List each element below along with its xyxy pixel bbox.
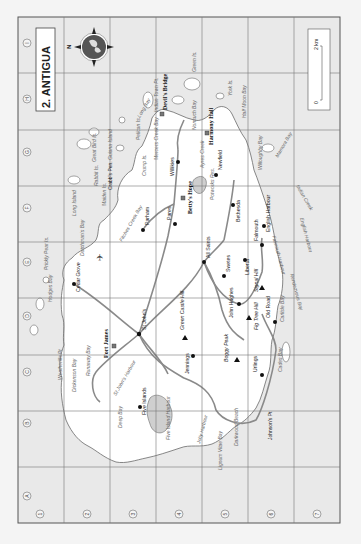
grid-row-1: 1 <box>37 512 43 515</box>
water-label: Crump Is. <box>141 154 147 176</box>
town-label: Falmouth <box>253 219 259 241</box>
water-label: Mercers Creek Bay <box>153 117 159 160</box>
peak-label: Signal Hill <box>253 268 259 292</box>
grid-col-I: I <box>24 42 30 43</box>
site-label: Devil's Bridge <box>162 73 168 110</box>
town-label: Jennings <box>184 353 190 374</box>
water-label: Guiana Island <box>107 129 113 160</box>
water-label: Prickly Pear Is. <box>43 237 49 270</box>
water-label: Carlisle Bay <box>279 295 285 322</box>
grid-col-H: H <box>24 97 30 101</box>
water-label: Darkwood Beach <box>233 408 239 446</box>
grid-col-C: C <box>24 370 30 374</box>
water-label: York Is. <box>227 79 233 96</box>
grid-col-F: F <box>24 206 30 209</box>
town-label: Old Road <box>265 296 271 318</box>
map-title-box: 2. ANTIGUA <box>36 28 55 111</box>
water-label: Pelican Is. <box>135 117 141 140</box>
water-label: Willoughby Bay <box>257 135 263 170</box>
airport-icon: ✈ <box>95 253 105 261</box>
water-label: Johnson's Pt <box>267 411 273 440</box>
water-label: Green Is. <box>191 51 197 72</box>
town-label: Swetes <box>225 255 231 272</box>
water-label: Lignum Vitae Bay <box>217 430 223 470</box>
town-label: Willikies <box>169 157 175 176</box>
town-label: All Saints <box>205 236 211 258</box>
compass-north-label: N <box>66 45 72 49</box>
town-label: St John's <box>141 308 147 330</box>
site-label: Fort James <box>103 329 109 358</box>
water-label: Nonsuch Bay <box>191 100 197 130</box>
water-label: Five Island Harbour <box>165 396 171 440</box>
scale-bar: 0 2 km <box>308 29 330 110</box>
water-label: Dickenson Bay <box>71 358 77 392</box>
water-label: Great Bird Is. <box>91 133 97 162</box>
grid-col-D: D <box>24 314 30 318</box>
water-label: Ayres Creek <box>199 140 205 169</box>
grid-row-3: 3 <box>130 512 136 515</box>
water-label: Crabb's Pen. <box>107 161 113 190</box>
grid-row-6: 6 <box>268 512 274 515</box>
water-label: Runaway Bay <box>85 345 91 376</box>
grid-row-2: 2 <box>84 512 90 515</box>
peak-label: Fig Tree Hill <box>253 302 259 330</box>
grid-row-7: 7 <box>314 512 320 515</box>
grid-col-G: G <box>24 150 30 154</box>
town-label: Cedar Grove <box>75 262 81 292</box>
water-label: Potworks Res. <box>209 168 215 200</box>
water-label: Weatherills Pt <box>57 349 63 380</box>
town-label: John Hughes <box>228 287 234 318</box>
town-label: Urlings <box>252 355 258 372</box>
town-label: Bethesda <box>235 200 241 222</box>
town-label: Newfield <box>217 150 223 170</box>
grid-row-5: 5 <box>222 512 228 515</box>
grid-row-4: 4 <box>176 512 182 515</box>
water-label: Long Island <box>71 190 77 216</box>
water-label: Hodges Bay <box>47 274 53 302</box>
water-label: Rabbit Is. <box>93 165 99 186</box>
map-title: 2. ANTIGUA <box>40 46 52 108</box>
town-label: Pares <box>166 206 172 220</box>
scale-zero: 0 <box>313 101 319 104</box>
peak-label: Green Castle Hill <box>179 290 185 330</box>
town-label: Liberta <box>244 259 250 275</box>
town-label: English Harbour <box>265 195 271 232</box>
water-label: Indian Town Pt. <box>153 78 159 112</box>
town-label: Parham <box>144 207 150 225</box>
town-label: Five Islands <box>141 387 147 415</box>
peak-label: Boggy Peak <box>223 334 229 362</box>
antigua-map: I H G F E D C B A 1 2 3 4 5 6 7 2. ANTIG… <box>0 0 361 544</box>
water-label: Half Moon Bay <box>241 85 247 118</box>
water-label: Deep Bay <box>117 406 123 428</box>
water-label: Cades Bay <box>277 347 283 372</box>
scale-max: 2 km <box>313 39 319 50</box>
site-label: Harmony Hall <box>208 108 214 145</box>
site-label: Betty's Hope <box>187 181 193 214</box>
water-label: Dutchman's Bay <box>79 219 85 256</box>
